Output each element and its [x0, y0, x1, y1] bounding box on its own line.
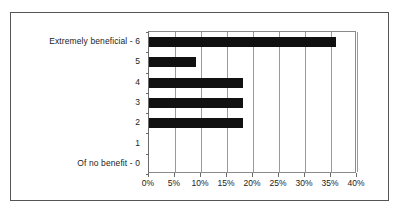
x-axis-tick-label: 15%	[217, 178, 234, 188]
y-axis-label: 4	[135, 72, 140, 92]
x-axis-tick	[174, 173, 175, 177]
bar-track	[149, 113, 357, 133]
bar	[149, 118, 243, 128]
y-axis-label: 3	[135, 92, 140, 112]
y-axis-label: 5	[135, 51, 140, 71]
x-axis-tick-label: 35%	[321, 178, 338, 188]
y-axis-tick	[146, 73, 149, 74]
bar-track	[149, 52, 357, 72]
x-axis-tick-label: 0%	[142, 178, 154, 188]
y-axis-tick	[146, 133, 149, 134]
x-axis-tick-labels: 0%5%10%15%20%25%30%35%40%	[148, 178, 356, 192]
x-axis-tick	[304, 173, 305, 177]
y-axis-label: Of no benefit - 0	[77, 153, 140, 173]
y-axis-label: 1	[135, 132, 140, 152]
x-axis-tick-label: 10%	[191, 178, 208, 188]
bar-track	[149, 32, 357, 52]
x-axis-tick	[148, 173, 149, 177]
y-axis-tick	[146, 32, 149, 33]
bar-track	[149, 154, 357, 174]
bar	[149, 98, 243, 108]
y-axis-tick	[146, 113, 149, 114]
x-axis-tick	[330, 173, 331, 177]
x-axis-tick-label: 40%	[347, 178, 364, 188]
x-axis-tick	[252, 173, 253, 177]
plot-area	[148, 31, 356, 173]
chart-figure: Extremely beneficial - 654321Of no benef…	[0, 0, 405, 214]
bar-track	[149, 73, 357, 93]
bar	[149, 37, 336, 47]
y-axis-tick	[146, 93, 149, 94]
y-axis-labels: Extremely beneficial - 654321Of no benef…	[18, 31, 144, 173]
x-axis-tick	[226, 173, 227, 177]
y-axis-tick	[146, 154, 149, 155]
bar	[149, 57, 196, 67]
gridline	[357, 32, 358, 172]
x-axis-tick-label: 20%	[243, 178, 260, 188]
bar-series	[149, 32, 355, 172]
y-axis-tick	[146, 52, 149, 53]
x-axis-tick	[278, 173, 279, 177]
bar-track	[149, 133, 357, 153]
bar	[149, 78, 243, 88]
x-axis-tick-label: 25%	[269, 178, 286, 188]
x-axis-tick	[200, 173, 201, 177]
bar-track	[149, 93, 357, 113]
x-axis-tick	[356, 173, 357, 177]
y-axis-label: 2	[135, 112, 140, 132]
x-axis-tick-label: 5%	[168, 178, 180, 188]
x-axis-tick-label: 30%	[295, 178, 312, 188]
y-axis-label: Extremely beneficial - 6	[49, 31, 140, 51]
